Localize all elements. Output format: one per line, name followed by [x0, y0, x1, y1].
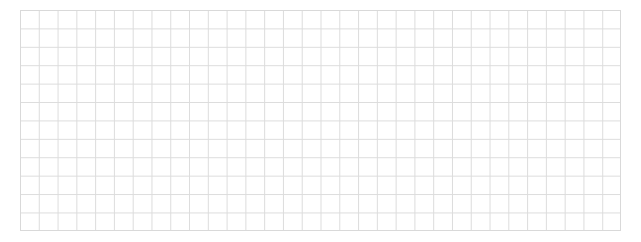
blank-grid — [20, 10, 621, 231]
